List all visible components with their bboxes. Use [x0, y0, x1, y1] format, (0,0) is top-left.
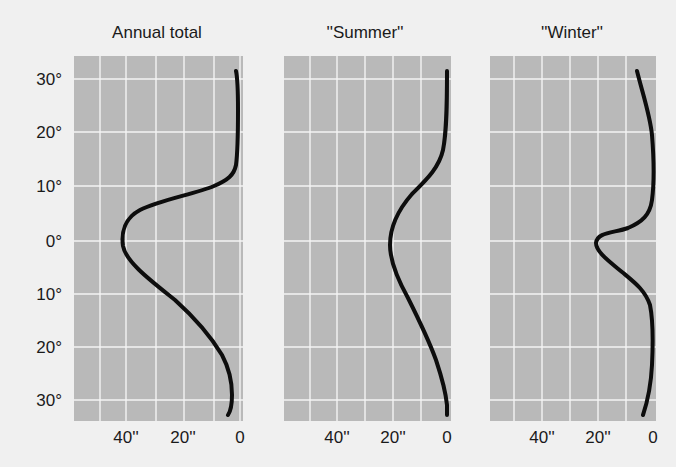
y-tick-label: 20° — [36, 338, 62, 357]
panel-summer: ''Summer'' 40'' 20'' 0 — [284, 23, 452, 447]
x-tick-label: 0 — [442, 428, 451, 447]
x-tick-label: 20'' — [170, 428, 195, 447]
plot-area — [490, 56, 656, 421]
plot-area — [284, 56, 451, 421]
x-tick-label: 0 — [648, 428, 657, 447]
y-tick-label: 30° — [36, 70, 62, 89]
x-tick-label: 40'' — [529, 428, 554, 447]
y-axis: 30° 20° 10° 0° 10° 20° 30° — [36, 70, 62, 410]
panel-annual-total: Annual total 40'' 20'' 0 — [74, 23, 245, 447]
x-tick-label: 0 — [235, 428, 244, 447]
y-tick-label: 0° — [46, 232, 62, 251]
y-tick-label: 30° — [36, 391, 62, 410]
x-tick-label: 20'' — [585, 428, 610, 447]
y-tick-label: 20° — [36, 123, 62, 142]
panel-winter: ''Winter'' 40'' 20'' 0 — [490, 23, 658, 447]
panel-title: ''Summer'' — [326, 23, 403, 42]
y-tick-label: 10° — [36, 177, 62, 196]
panel-title: Annual total — [112, 23, 202, 42]
chart-figure: 30° 20° 10° 0° 10° 20° 30° Annual total … — [0, 0, 676, 467]
x-tick-label: 20'' — [380, 428, 405, 447]
y-tick-label: 10° — [36, 285, 62, 304]
x-tick-label: 40'' — [324, 428, 349, 447]
x-tick-label: 40'' — [113, 428, 138, 447]
panel-title: ''Winter'' — [541, 23, 603, 42]
